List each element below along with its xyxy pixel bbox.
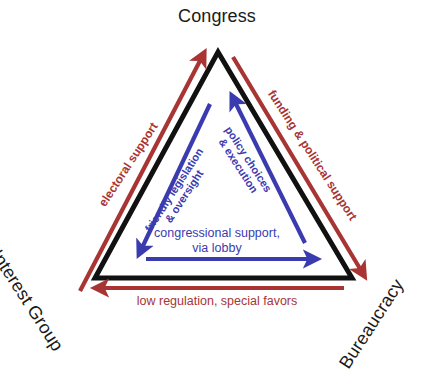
edge-label-congressional-support: congressional support, via lobby: [0, 226, 434, 256]
node-label-congress: Congress: [0, 6, 434, 26]
edge-label-low-regulation: low regulation, special favors: [0, 294, 434, 308]
edge-label-congressional-support-line1: congressional support,: [0, 226, 434, 241]
edge-label-congressional-support-line2: via lobby: [0, 241, 434, 256]
